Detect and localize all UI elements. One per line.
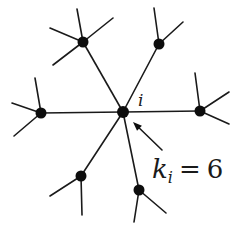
edge-stub	[81, 176, 82, 215]
edge-center-to-neighbor	[81, 112, 123, 176]
neighbor-node	[36, 108, 47, 119]
center-node	[117, 106, 129, 118]
center-node-label: i	[138, 90, 143, 110]
neighbor-node	[76, 171, 87, 182]
edge-stub	[53, 42, 83, 65]
network-diagram: i ki=6	[0, 0, 239, 230]
degree-subscript: i	[168, 168, 173, 187]
neighbor-node	[78, 37, 89, 48]
edge-stub	[50, 176, 81, 196]
degree-equals: =	[179, 154, 201, 184]
edge-stub	[83, 18, 113, 42]
edge-center-to-neighbor	[123, 111, 200, 112]
degree-k: k	[152, 154, 168, 184]
edge-center-to-neighbor	[41, 112, 123, 113]
neighbor-node	[154, 39, 165, 50]
degree-value: 6	[207, 154, 224, 184]
degree-label: ki=6	[152, 154, 223, 187]
neighbor-node	[134, 185, 145, 196]
edge-stub	[195, 73, 200, 111]
neighbor-node	[195, 106, 206, 117]
edge-center-to-neighbor	[83, 42, 123, 112]
degree-arrow	[133, 122, 162, 150]
